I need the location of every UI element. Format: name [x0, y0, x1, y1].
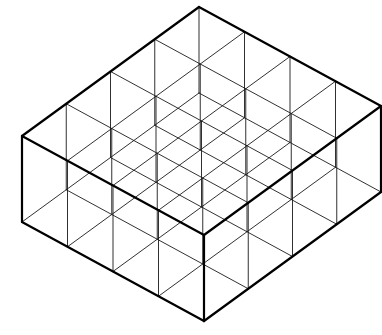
canvas-background	[0, 0, 382, 335]
isometric-wireframe-svg	[0, 0, 382, 335]
isometric-grid-figure	[0, 0, 382, 335]
